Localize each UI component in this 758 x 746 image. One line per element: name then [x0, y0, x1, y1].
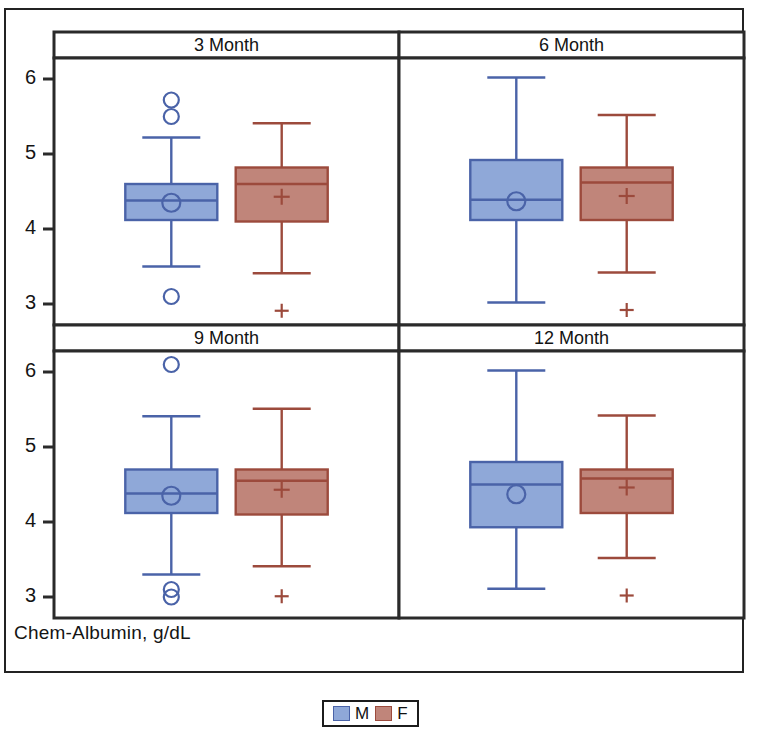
legend-item-m[interactable]: M — [333, 705, 369, 722]
y-tick-label: 3 — [4, 584, 36, 607]
y-axis-label: Chem-Albumin, g/dL — [14, 622, 191, 644]
legend: M F — [322, 700, 419, 727]
legend-swatch-m-icon — [333, 706, 350, 721]
panel-plot-area-4 — [399, 351, 744, 618]
y-tick-label: 5 — [4, 141, 36, 164]
panel-plot-area-3 — [54, 351, 399, 618]
legend-item-f[interactable]: F — [375, 705, 407, 722]
box-iqr[interactable] — [125, 470, 217, 514]
boxplot-figure: Chem-Albumin, g/dL M F 3 Month34566 Mont… — [0, 0, 758, 746]
panel-title-1: 3 Month — [54, 35, 399, 56]
y-tick-label: 3 — [4, 291, 36, 314]
box-iqr[interactable] — [125, 184, 217, 220]
legend-label-m: M — [355, 705, 369, 722]
box-iqr[interactable] — [470, 462, 562, 527]
panel-title-4: 12 Month — [399, 328, 744, 349]
panel-plot-area-1 — [54, 58, 399, 325]
panel-title-2: 6 Month — [399, 35, 744, 56]
panel-plot-area-2 — [399, 58, 744, 325]
legend-label-f: F — [397, 705, 407, 722]
panel-title-3: 9 Month — [54, 328, 399, 349]
y-tick-label: 6 — [4, 359, 36, 382]
y-tick-label: 6 — [4, 66, 36, 89]
legend-swatch-f-icon — [375, 706, 392, 721]
y-tick-label: 4 — [4, 509, 36, 532]
y-tick-label: 4 — [4, 216, 36, 239]
y-tick-label: 5 — [4, 434, 36, 457]
